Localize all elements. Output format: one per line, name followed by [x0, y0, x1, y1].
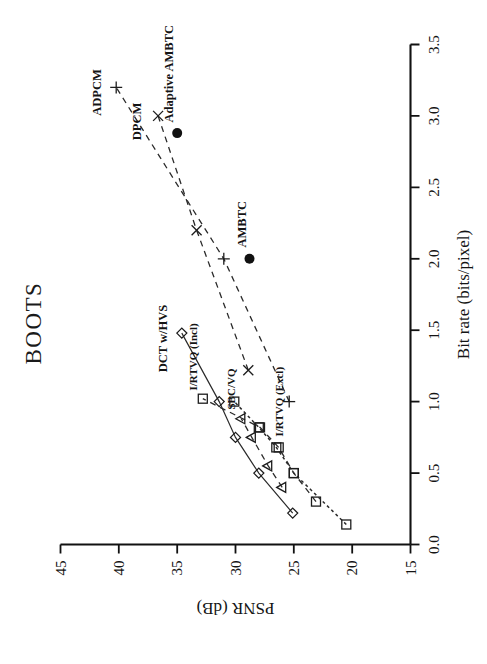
marker-cross: [191, 225, 201, 235]
rotated-figure: BOOTS: [0, 0, 487, 664]
x-tick-5: 2.5: [425, 178, 441, 197]
y-tick-3: 30: [227, 560, 243, 575]
y-axis: 15 20 25 30 35 40 45 PSNR (dB): [52, 544, 418, 617]
x-tick-4: 2.0: [425, 249, 441, 268]
marker-cross: [243, 365, 253, 375]
marker-plus: [283, 395, 295, 407]
marker-filled-circle: [172, 128, 182, 138]
x-tick-3: 1.5: [425, 320, 441, 339]
x-tick-7: 3.5: [425, 35, 441, 54]
marker-plus: [110, 81, 122, 93]
annotation-irtvq-excl: I/RTVQ (Excl): [272, 366, 285, 436]
chart-svg: 0.0 0.5 1.0 1.5 2.0 2.5 3.0 3.5 Bit rate…: [0, 0, 487, 664]
y-axis-label: PSNR (dB): [196, 598, 274, 617]
y-tick-0: 15: [402, 560, 418, 575]
series-adaptive-ambtc: Adaptive AMBTC: [161, 24, 182, 137]
chart-page: BOOTS: [0, 0, 487, 664]
series-irtvq-excl: I/RTVQ (Excl): [229, 366, 350, 528]
marker-triangle: [276, 482, 285, 492]
y-tick-4: 35: [169, 560, 185, 575]
annotation-dct-whvs: DCT w/HVS: [155, 304, 169, 372]
x-axis: 0.0 0.5 1.0 1.5 2.0 2.5 3.0 3.5 Bit rate…: [410, 35, 472, 554]
x-axis-tick-labels: 0.0 0.5 1.0 1.5 2.0 2.5 3.0 3.5: [425, 35, 441, 554]
y-tick-1: 20: [344, 560, 360, 575]
series-irtvq-incl: I/RTVQ (Incl): [186, 323, 320, 506]
annotation-irtvq-incl: I/RTVQ (Incl): [186, 323, 199, 390]
marker-plus: [217, 252, 229, 264]
y-tick-6: 45: [52, 560, 68, 575]
x-tick-2: 1.0: [425, 392, 441, 411]
marker-diamond: [176, 328, 186, 338]
x-axis-label: Bit rate (bits/pixel): [453, 229, 472, 358]
plot-area: BOOTS: [0, 0, 487, 664]
x-tick-1: 0.5: [425, 463, 441, 482]
annotation-adpcm: ADPCM: [89, 69, 103, 116]
marker-filled-circle: [244, 253, 254, 263]
y-tick-2: 25: [285, 560, 301, 575]
annotation-dpcm: DPCM: [129, 102, 143, 140]
y-tick-5: 40: [110, 560, 126, 575]
annotation-ambtc: AMBTC: [234, 200, 248, 247]
annotation-adaptive-ambtc: Adaptive AMBTC: [161, 24, 175, 122]
x-tick-0: 0.0: [425, 535, 441, 554]
y-axis-tick-labels: 15 20 25 30 35 40 45: [52, 560, 418, 575]
marker-square: [198, 394, 207, 403]
x-tick-6: 3.0: [425, 106, 441, 125]
series-ambtc: AMBTC: [234, 200, 254, 263]
